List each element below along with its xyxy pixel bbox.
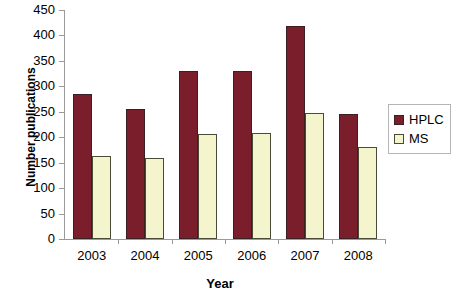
bar-group: [286, 10, 324, 239]
y-axis-tick-mark: [59, 239, 65, 240]
bar-ms-2003: [92, 156, 111, 239]
y-axis-tick-label: 150: [33, 155, 55, 170]
x-axis-label-2004: 2004: [118, 248, 171, 263]
bar-group: [179, 10, 217, 239]
legend-item-ms[interactable]: MS: [394, 129, 444, 148]
y-axis-tick-label: 0: [48, 231, 55, 246]
x-axis-label-2003: 2003: [65, 248, 118, 263]
y-axis-tick-label: 50: [41, 206, 55, 221]
y-axis-tick-label: 200: [33, 129, 55, 144]
bar-hplc-2005: [179, 71, 198, 239]
bar-group: [339, 10, 377, 239]
legend-swatch-hplc: [394, 115, 404, 125]
y-axis-tick-label: 100: [33, 180, 55, 195]
y-axis-tick-label: 450: [33, 2, 55, 17]
legend-swatch-ms: [394, 134, 404, 144]
bar-group: [126, 10, 164, 239]
bar-hplc-2004: [126, 109, 145, 239]
bar-hplc-2008: [339, 114, 358, 239]
bar-chart: Number publications Year 450400350300250…: [0, 0, 457, 299]
legend-item-hplc[interactable]: HPLC: [394, 110, 444, 129]
y-axis-tick-label: 350: [33, 53, 55, 68]
legend-label-ms: MS: [409, 131, 429, 146]
x-axis-tick-mark: [278, 239, 279, 244]
bar-group: [233, 10, 271, 239]
x-axis-label-2008: 2008: [332, 248, 385, 263]
bar-hplc-2006: [233, 71, 252, 239]
x-axis-tick-mark: [118, 239, 119, 244]
bar-ms-2008: [358, 147, 377, 239]
x-axis-label-2007: 2007: [278, 248, 331, 263]
x-axis-label-2006: 2006: [225, 248, 278, 263]
bar-ms-2005: [198, 134, 217, 239]
x-axis-label-2005: 2005: [172, 248, 225, 263]
bar-ms-2007: [305, 113, 324, 239]
bar-ms-2006: [252, 133, 271, 239]
y-axis-tick-label: 300: [33, 78, 55, 93]
x-axis-title: Year: [55, 276, 385, 291]
bar-hplc-2007: [286, 26, 305, 239]
chart-legend: HPLCMS: [388, 104, 451, 154]
y-axis-tick-label: 400: [33, 27, 55, 42]
legend-label-hplc: HPLC: [409, 112, 444, 127]
bar-ms-2004: [145, 158, 164, 239]
x-axis-tick-mark: [332, 239, 333, 244]
x-axis-tick-mark: [225, 239, 226, 244]
plot-area: [65, 10, 385, 239]
x-axis-tick-mark: [385, 239, 386, 244]
bar-group: [73, 10, 111, 239]
x-axis-tick-mark: [172, 239, 173, 244]
bar-hplc-2003: [73, 94, 92, 239]
y-axis-tick-label: 250: [33, 104, 55, 119]
